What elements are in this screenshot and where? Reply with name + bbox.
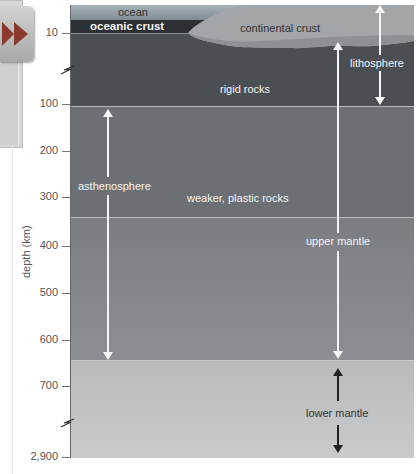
- arrowhead-up-icon: [333, 42, 343, 50]
- tick-label-10: 10: [18, 26, 58, 38]
- side-tab-inner: [0, 49, 19, 145]
- tick-700: [62, 386, 70, 387]
- tick-400: [62, 246, 70, 247]
- lithosphere-boundary: [70, 106, 414, 107]
- tick-600: [62, 340, 70, 341]
- arrowhead-down-icon: [333, 445, 343, 453]
- tick-label-300: 300: [18, 190, 58, 202]
- continental-crust-label: continental crust: [240, 22, 320, 34]
- asthenosphere-boundary: [70, 217, 414, 218]
- tick-label-400: 400: [18, 239, 58, 251]
- tick-label-500: 500: [18, 286, 58, 298]
- tick-100: [62, 104, 70, 105]
- asthenosphere-label: asthenosphere: [78, 180, 151, 192]
- ocean-label: ocean: [118, 6, 148, 18]
- y-axis-label: depth (km): [20, 225, 32, 278]
- lithosphere-arrow-down: [379, 71, 381, 99]
- page-margin-line: [12, 146, 13, 474]
- lithosphere-label: lithosphere: [350, 57, 404, 69]
- arrowhead-down-icon: [103, 352, 113, 360]
- tick-2900: [62, 457, 70, 458]
- earth-cross-section: ocean oceanic crust continental crust ri…: [70, 5, 414, 458]
- plastic-rocks-label: weaker, plastic rocks: [187, 192, 288, 204]
- tick-label-2900: 2,900: [18, 450, 58, 462]
- tick-200: [62, 151, 70, 152]
- rigid-rocks-label: rigid rocks: [220, 83, 270, 95]
- axis-break-lower-icon: [60, 417, 76, 431]
- arrowhead-up-icon: [103, 109, 113, 117]
- axis-break-upper-icon: [60, 64, 76, 78]
- arrowhead-down-icon: [375, 97, 385, 105]
- arrowhead-up-icon: [375, 5, 385, 13]
- tick-label-700: 700: [18, 379, 58, 391]
- tick-300: [62, 197, 70, 198]
- lower-mantle-label: lower mantle: [306, 407, 368, 419]
- tick-10: [62, 33, 70, 34]
- tick-label-100: 100: [18, 97, 58, 109]
- tick-label-200: 200: [18, 144, 58, 156]
- lithosphere-arrow-up: [379, 9, 381, 55]
- lower-mantle-arrow-up: [337, 375, 339, 401]
- asthenosphere-arrow-down: [107, 195, 109, 355]
- arrowhead-down-icon: [333, 351, 343, 359]
- arrowhead-up-icon: [333, 368, 343, 376]
- oceanic-crust-label: oceanic crust: [90, 20, 164, 32]
- tick-label-600: 600: [18, 333, 58, 345]
- upper-mantle-label: upper mantle: [306, 235, 370, 247]
- lower-mantle-arrow-down: [337, 425, 339, 447]
- upper-mantle-arrow-down: [337, 251, 339, 353]
- tick-500: [62, 293, 70, 294]
- upper-lower-mantle-boundary: [70, 360, 414, 361]
- asthenosphere-arrow-up: [107, 115, 109, 177]
- upper-mantle-arrow-up: [337, 48, 339, 233]
